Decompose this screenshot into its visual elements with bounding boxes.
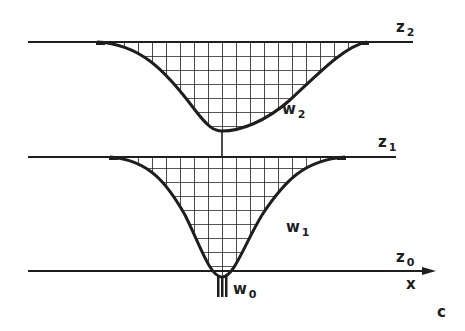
label-w1-subscript: 1 [302, 226, 310, 239]
label-w1-main: w [286, 218, 300, 236]
label-z0-subscript: 0 [407, 256, 415, 269]
label-z0: z0 [396, 250, 414, 265]
label-z2-subscript: 2 [407, 26, 415, 39]
label-w0-subscript: 0 [249, 288, 257, 301]
label-w2-main: w [282, 100, 296, 118]
label-w2: w2 [282, 102, 306, 117]
label-w0-main: w [233, 280, 247, 298]
label-z0-main: z [396, 248, 405, 266]
label-x-axis: x [406, 277, 416, 292]
label-w1: w1 [286, 220, 310, 235]
profile-w2 [90, 41, 375, 137]
arrow-right-icon [422, 267, 436, 275]
label-w2-subscript: 2 [298, 108, 306, 121]
label-z2-main: z [396, 18, 405, 36]
source-stem-w0 [217, 276, 228, 297]
label-z2: z2 [396, 20, 414, 35]
label-z1-main: z [378, 133, 387, 151]
panel-letter-text: c [437, 303, 446, 321]
label-x-main: x [406, 275, 416, 293]
profile-w1 [105, 156, 350, 282]
panel-letter: c [437, 305, 446, 320]
label-z1-subscript: 1 [389, 141, 397, 154]
label-w0: w0 [233, 282, 257, 297]
label-z1: z1 [378, 135, 396, 150]
